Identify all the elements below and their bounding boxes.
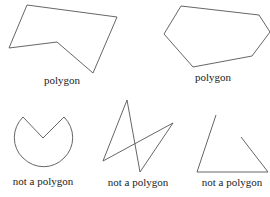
figure-self-intersecting (103, 100, 173, 172)
label-not-polygon-2: not a polygon (108, 176, 169, 188)
figure-convex-hexagon (164, 6, 270, 67)
figure-open (197, 115, 268, 172)
polygon-diagram (0, 0, 270, 197)
label-not-polygon-3: not a polygon (202, 176, 263, 188)
label-polygon-2: polygon (195, 71, 231, 83)
figure-concave-pentagon (9, 5, 117, 73)
label-polygon-1: polygon (44, 74, 80, 86)
label-not-polygon-1: not a polygon (13, 175, 74, 187)
figure-pacman (14, 117, 72, 167)
